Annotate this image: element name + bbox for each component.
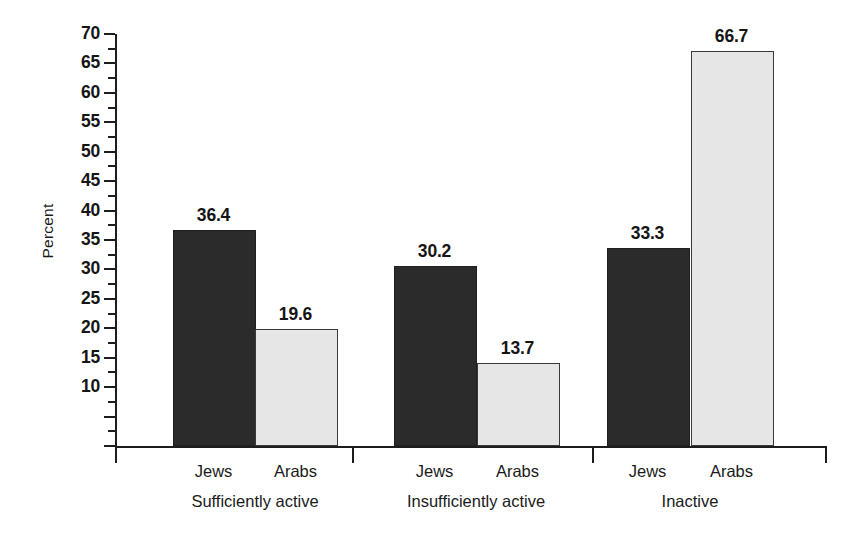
x-axis-group-separator-tick	[825, 446, 827, 463]
y-tick-label: 20	[54, 317, 100, 338]
y-tick-major	[104, 210, 115, 212]
y-tick-minor	[108, 48, 115, 50]
y-tick-label: 25	[54, 288, 100, 309]
x-axis-group-label: Inactive	[570, 492, 810, 511]
bar-value-label: 30.2	[374, 241, 495, 262]
bar-value-label: 36.4	[153, 205, 274, 226]
y-tick-label: 10	[54, 376, 100, 397]
y-tick-label-wrap: 70	[46, 23, 100, 43]
y-tick-label: 15	[54, 347, 100, 368]
x-axis-origin-tick	[115, 446, 117, 463]
y-tick-label: 60	[54, 82, 100, 103]
x-axis-group-separator-tick	[352, 446, 354, 463]
y-tick-major	[104, 416, 115, 418]
y-tick-label: 65	[54, 52, 100, 73]
y-tick-label: 45	[54, 170, 100, 191]
y-tick-major	[104, 327, 115, 329]
bar-inactive-jews[interactable]	[607, 248, 690, 446]
y-tick-label-wrap: 45	[46, 170, 100, 190]
y-tick-major	[104, 180, 115, 182]
y-tick-major	[104, 92, 115, 94]
y-tick-major	[104, 386, 115, 388]
y-tick-minor	[108, 107, 115, 109]
bar-chart: Percent 70656055504540353025201510 36.4J…	[0, 0, 858, 541]
y-tick-minor	[108, 77, 115, 79]
y-tick-label-wrap: 10	[46, 376, 100, 396]
bar-value-label: 19.6	[235, 304, 356, 325]
y-tick-minor	[108, 401, 115, 403]
y-tick-label: 55	[54, 111, 100, 132]
x-axis-series-label-arabs: Arabs	[230, 462, 361, 481]
y-tick-label-wrap: 20	[46, 317, 100, 337]
y-tick-label-wrap: 15	[46, 347, 100, 367]
y-tick-major	[104, 33, 115, 35]
x-axis-group-separator-tick	[592, 446, 594, 463]
y-tick-minor	[108, 165, 115, 167]
y-tick-minor	[108, 342, 115, 344]
y-tick-minor	[108, 224, 115, 226]
bar-insufficiently-active-arabs[interactable]	[477, 363, 560, 446]
y-tick-minor	[108, 254, 115, 256]
y-tick-major	[104, 151, 115, 153]
y-tick-label: 70	[54, 23, 100, 44]
y-tick-label-wrap: 60	[46, 82, 100, 102]
bar-value-label: 33.3	[587, 223, 708, 244]
y-tick-label-wrap: 65	[46, 52, 100, 72]
y-tick-label-wrap: 55	[46, 111, 100, 131]
y-tick-label: 35	[54, 229, 100, 250]
y-tick-major	[104, 239, 115, 241]
y-tick-minor	[108, 136, 115, 138]
y-tick-major	[104, 121, 115, 123]
y-tick-label-wrap: 25	[46, 288, 100, 308]
bar-value-label: 66.7	[671, 26, 792, 47]
y-axis-line	[115, 34, 117, 460]
bar-sufficiently-active-jews[interactable]	[173, 230, 256, 446]
y-tick-minor	[108, 371, 115, 373]
y-tick-minor	[108, 195, 115, 197]
x-axis-series-label-arabs: Arabs	[666, 462, 797, 481]
y-tick-label-wrap: 30	[46, 258, 100, 278]
y-tick-major	[104, 298, 115, 300]
y-tick-major	[104, 357, 115, 359]
x-axis-line	[115, 446, 827, 448]
y-tick-minor	[108, 283, 115, 285]
bar-inactive-arabs[interactable]	[691, 51, 774, 446]
y-tick-label: 50	[54, 141, 100, 162]
y-tick-label: 40	[54, 200, 100, 221]
x-axis-group-label: Insufficiently active	[356, 492, 596, 511]
y-tick-label-wrap: 35	[46, 229, 100, 249]
y-tick-major	[104, 62, 115, 64]
y-tick-label-wrap: 50	[46, 141, 100, 161]
y-tick-major	[104, 445, 115, 447]
y-tick-label: 30	[54, 258, 100, 279]
y-tick-minor	[108, 313, 115, 315]
y-tick-label-wrap: 40	[46, 200, 100, 220]
y-tick-major	[104, 268, 115, 270]
y-tick-minor	[108, 430, 115, 432]
x-axis-group-label: Sufficiently active	[135, 492, 375, 511]
x-axis-series-label-arabs: Arabs	[452, 462, 583, 481]
bar-value-label: 13.7	[457, 338, 578, 359]
bar-sufficiently-active-arabs[interactable]	[255, 329, 338, 446]
